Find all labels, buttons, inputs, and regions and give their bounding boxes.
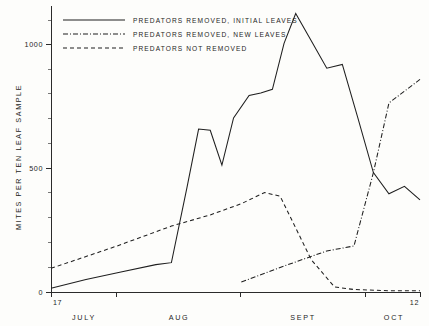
legend-label-1: PREDATORS REMOVED, NEW LEAVES — [133, 31, 287, 38]
x-month-label-oct: OCT — [384, 313, 404, 322]
y-tick-label-500: 500 — [29, 164, 43, 173]
legend: PREDATORS REMOVED, INITIAL LEAVES PREDAT… — [63, 17, 298, 52]
x-month-label-sept: SEPT — [290, 313, 316, 322]
y-tick-label-0: 0 — [38, 288, 43, 297]
x-month-label-july: JULY — [72, 313, 96, 322]
y-axis-ticks — [46, 44, 51, 292]
legend-label-0: PREDATORS REMOVED, INITIAL LEAVES — [133, 17, 298, 24]
series-line-predators-removed-initial-leaves — [51, 13, 420, 288]
x-label-end: 12 — [410, 298, 419, 307]
y-tick-label-1000: 1000 — [25, 40, 43, 49]
x-month-label-aug: AUG — [169, 313, 190, 322]
y-axis-title: MITES PER TEN LEAF SAMPLE — [14, 84, 23, 230]
series-line-predators-not-removed — [51, 193, 420, 291]
x-label-start: 17 — [53, 298, 62, 307]
x-axis-ticks — [51, 292, 420, 297]
legend-label-2: PREDATORS NOT REMOVED — [133, 45, 247, 52]
series-line-predators-removed-new-leaves — [241, 79, 420, 282]
chart-canvas: 1000 500 0 MITES PER TEN LEAF SAMPLE 17 … — [0, 0, 429, 326]
chart-container: 1000 500 0 MITES PER TEN LEAF SAMPLE 17 … — [0, 0, 429, 326]
